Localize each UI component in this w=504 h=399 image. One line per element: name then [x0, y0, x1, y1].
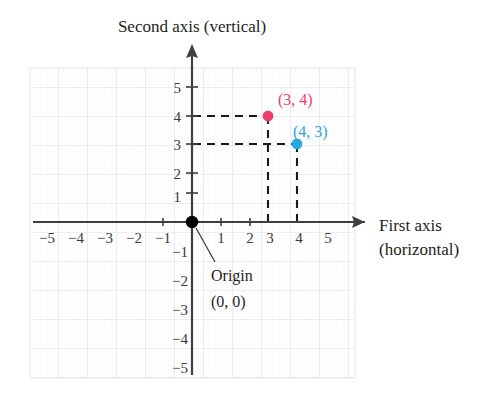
x-tick--3: −3	[97, 230, 113, 246]
y-tick--5: −5	[172, 360, 188, 376]
point-4-3-dot	[292, 139, 303, 150]
x-tick--1: −1	[155, 230, 171, 246]
y-tick--3: −3	[172, 302, 188, 318]
x-tick--2: −2	[126, 230, 142, 246]
origin-dot	[186, 216, 198, 228]
y-tick-1: 1	[174, 189, 182, 205]
origin-label-line2: (0, 0)	[211, 293, 246, 311]
point-4-3-label: (4, 3)	[293, 123, 328, 141]
x-tick--5: −5	[39, 230, 55, 246]
y-tick-2: 2	[174, 166, 182, 182]
horizontal-axis-label-line2: (horizontal)	[379, 240, 459, 259]
x-tick-2: 2	[246, 230, 254, 246]
y-tick--2: −2	[172, 273, 188, 289]
x-tick-5: 5	[324, 230, 332, 246]
vertical-axis-title: Second axis (vertical)	[118, 17, 266, 36]
y-tick-3: 3	[174, 137, 182, 153]
horizontal-axis-label-line1: First axis	[379, 216, 442, 235]
point-3-4-label: (3, 4)	[278, 91, 313, 109]
y-axis-arrowhead	[186, 44, 198, 58]
x-tick--4: −4	[68, 230, 84, 246]
x-tick-3: 3	[266, 230, 274, 246]
figure-canvas: Second axis (vertical) First axis (horiz…	[0, 0, 504, 399]
y-tick--1: −1	[172, 244, 188, 260]
coordinate-plane-figure: Second axis (vertical) First axis (horiz…	[0, 0, 504, 399]
y-tick--4: −4	[172, 331, 188, 347]
origin-label-line1: Origin	[211, 267, 253, 285]
point-3-4-dot	[263, 111, 274, 122]
x-tick-4: 4	[295, 230, 303, 246]
x-tick-1: 1	[217, 230, 225, 246]
y-tick-5: 5	[174, 80, 182, 96]
y-tick-4: 4	[174, 109, 182, 125]
